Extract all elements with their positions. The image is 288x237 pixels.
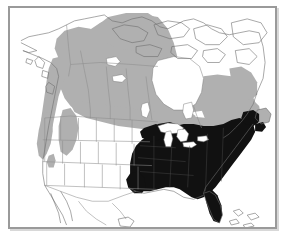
north-america-range-map bbox=[9, 7, 276, 228]
figure-container: North America bbox=[0, 0, 288, 237]
map-frame: North America bbox=[8, 6, 277, 229]
